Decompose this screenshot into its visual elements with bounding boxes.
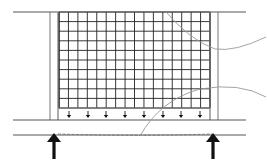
leader-lower — [140, 87, 266, 136]
support-arrow-shaft — [52, 141, 55, 159]
diagram-svg — [0, 0, 267, 164]
support-arrows — [47, 133, 220, 159]
down-arrow-icon — [161, 115, 165, 118]
load-arrows — [67, 111, 202, 118]
down-arrow-icon — [67, 115, 71, 118]
down-arrow-icon — [142, 115, 146, 118]
down-arrow-icon — [123, 115, 127, 118]
base-rail — [13, 120, 246, 135]
down-arrow-icon — [179, 115, 183, 118]
down-arrow-icon — [198, 115, 202, 118]
down-arrow-icon — [86, 115, 90, 118]
walls — [13, 12, 246, 120]
down-arrow-icon — [104, 115, 108, 118]
support-arrow-shaft — [211, 141, 214, 159]
leader-lines — [140, 12, 266, 136]
diagram-canvas — [0, 0, 267, 164]
